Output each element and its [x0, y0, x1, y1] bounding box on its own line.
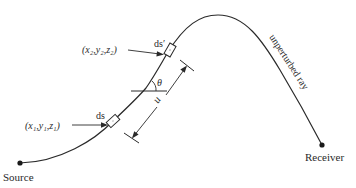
theta-angle-arc [152, 81, 156, 91]
ds-label: ds [96, 110, 105, 121]
ds-prime-element-box [164, 43, 176, 57]
point2-arrowhead [156, 51, 164, 56]
point2-label: (x₂,y₂,z₂) [82, 44, 118, 56]
point1-label: (x₁,y₁,z₁) [25, 120, 61, 132]
ray-path-diagram: Source Receiver ds (x₁,y₁,z₁) ds′ (x₂,y₂… [0, 0, 356, 188]
source-point [17, 160, 22, 165]
unperturbed-ray-label: unperturbed ray [267, 32, 311, 91]
theta-label: θ [157, 77, 162, 88]
u-arrowhead-bottom [132, 131, 139, 138]
u-arrowhead-top [180, 66, 187, 73]
ds-prime-label: ds′ [154, 38, 165, 49]
point2-arrow [128, 50, 160, 54]
receiver-point [319, 142, 324, 147]
receiver-label: Receiver [305, 151, 344, 163]
u-distance-label: u [150, 93, 163, 105]
u-dimension-line-lower [133, 107, 157, 137]
source-label: Source [3, 171, 34, 183]
